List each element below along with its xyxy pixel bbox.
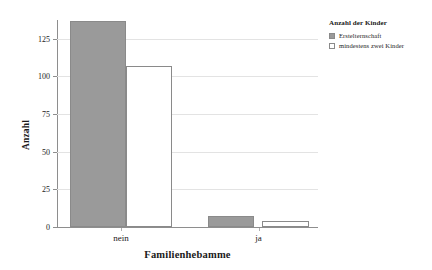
y-axis-title: Anzahl [21, 120, 31, 150]
y-tick-mark [53, 189, 57, 190]
plot-area: 0255075100125 [57, 20, 318, 227]
x-tick-mark [121, 228, 122, 231]
x-tick-label-nein: nein [113, 233, 129, 243]
x-tick-label-ja: ja [255, 233, 262, 243]
legend-swatch-filled-icon [329, 33, 335, 39]
legend-title: Anzahl der Kinder [329, 19, 429, 27]
legend: Anzahl der Kinder Erstelternschaft minde… [329, 19, 429, 52]
x-axis-line [57, 227, 318, 228]
y-tick-mark [53, 152, 57, 153]
bar[interactable] [126, 66, 172, 227]
legend-item-label: mindestens zwei Kinder [339, 42, 404, 49]
bar[interactable] [70, 21, 126, 227]
legend-swatch-unfilled-icon [329, 43, 335, 49]
legend-item-erstelternschaft[interactable]: Erstelternschaft [329, 32, 429, 39]
y-tick-label: 125 [38, 34, 50, 43]
y-tick-label: 25 [42, 185, 50, 194]
y-tick-mark [53, 39, 57, 40]
y-tick-mark [53, 76, 57, 77]
bar-chart: Anzahl 0255075100125 nein ja Familienheb… [0, 0, 432, 270]
y-tick-label: 75 [42, 110, 50, 119]
y-tick-label: 50 [42, 147, 50, 156]
y-tick-label: 100 [38, 72, 50, 81]
x-axis-title: Familienhebamme [57, 249, 318, 260]
legend-item-label: Erstelternschaft [339, 32, 381, 39]
bar[interactable] [262, 221, 309, 227]
y-tick-mark [53, 114, 57, 115]
y-tick-mark [53, 227, 57, 228]
y-tick-label: 0 [46, 223, 50, 232]
bar[interactable] [208, 216, 254, 227]
legend-item-mindestens-zwei-kinder[interactable]: mindestens zwei Kinder [329, 42, 429, 49]
x-tick-mark [259, 228, 260, 231]
